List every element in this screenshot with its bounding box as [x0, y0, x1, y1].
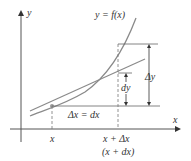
differential-diagram: y x y = f(x) Δx = dx Δy dy x x + Δx (x +…: [0, 0, 191, 161]
tick-x-plus-dx-alt: (x + dx): [102, 146, 135, 158]
dy-label: dy: [121, 82, 131, 93]
delta-y-label: Δy: [144, 71, 156, 82]
curve-f: [30, 18, 136, 116]
curve-label: y = f(x): [94, 9, 126, 21]
tick-x-plus-dx: x + Δx: [102, 133, 130, 144]
tick-x: x: [49, 133, 55, 144]
delta-x-label: Δx = dx: [67, 109, 100, 120]
x-axis-label: x: [172, 114, 178, 125]
y-axis-label: y: [26, 7, 32, 18]
